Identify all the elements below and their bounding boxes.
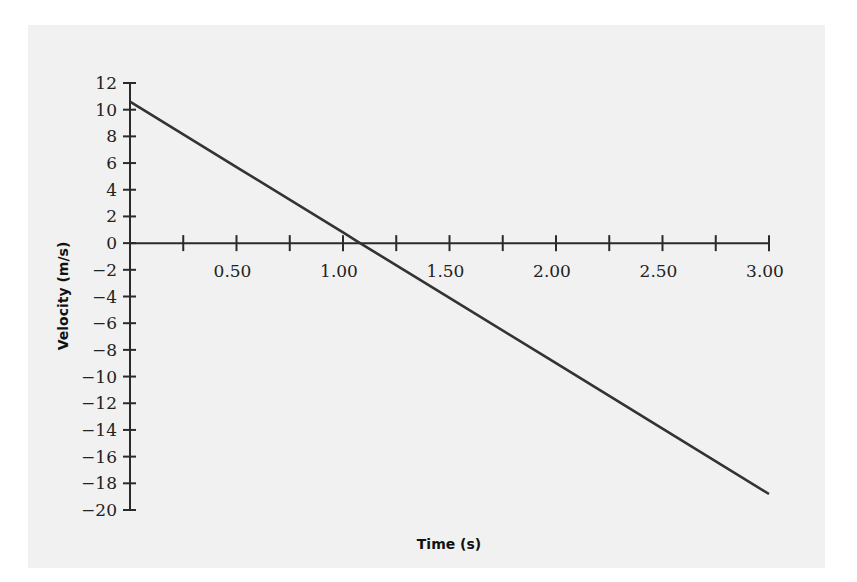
x-axis-title: Time (s)	[417, 536, 481, 552]
y-tick-label: 8	[106, 126, 117, 146]
tick-labels: 121086420−2−4−6−8−10−12−14−16−18−200.501…	[81, 73, 784, 520]
y-axis-title: Velocity (m/s)	[55, 242, 71, 351]
y-tick-label: −20	[81, 500, 117, 520]
y-tick-label: 4	[106, 180, 117, 200]
y-tick-label: 0	[106, 233, 117, 253]
x-tick-label: 1.50	[427, 261, 465, 281]
x-tick-label: 2.50	[640, 261, 678, 281]
y-tick-label: 6	[106, 153, 117, 173]
y-tick-label: −18	[81, 473, 117, 493]
y-tick-label: −10	[81, 367, 117, 387]
velocity-line	[130, 102, 769, 494]
y-tick-label: −12	[81, 393, 117, 413]
y-tick-label: −14	[81, 420, 117, 440]
y-tick-label: 10	[95, 100, 117, 120]
x-tick-label: 2.00	[533, 261, 571, 281]
y-tick-label: −8	[92, 340, 117, 360]
y-tick-label: −2	[92, 260, 117, 280]
y-tick-label: 12	[95, 73, 117, 93]
velocity-time-chart: 121086420−2−4−6−8−10−12−14−16−18−200.501…	[0, 0, 857, 582]
y-tick-label: 2	[106, 206, 117, 226]
y-tick-label: −16	[81, 447, 117, 467]
x-tick-label: 3.00	[746, 261, 784, 281]
y-tick-label: −6	[92, 313, 117, 333]
x-tick-label: 0.50	[214, 261, 252, 281]
x-tick-label: 1.00	[320, 261, 358, 281]
y-tick-label: −4	[92, 287, 117, 307]
